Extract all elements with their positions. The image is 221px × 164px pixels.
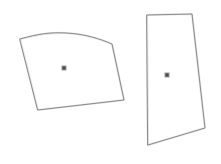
right-polygon-outline[interactable] <box>147 14 205 145</box>
left-polygon-group[interactable] <box>20 33 124 110</box>
sketch-canvas <box>0 0 221 164</box>
polygon-sketch-svg <box>0 0 221 164</box>
left-polygon-centroid-marker[interactable] <box>63 67 66 70</box>
right-polygon-outline-shadow <box>147 14 205 145</box>
right-polygon-group[interactable] <box>147 14 205 145</box>
left-polygon-outline-shadow <box>20 33 124 110</box>
right-polygon-centroid-marker[interactable] <box>166 74 169 77</box>
